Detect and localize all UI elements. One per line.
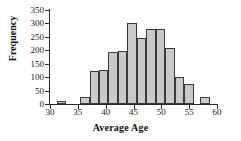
- y-tick-label: 50: [20, 87, 44, 96]
- x-tick-label: 60: [206, 108, 228, 117]
- x-tick-label: 45: [123, 108, 145, 117]
- y-tick: [45, 37, 49, 38]
- bars-layer: [50, 10, 217, 104]
- x-tick-label: 55: [178, 108, 200, 117]
- y-tick: [45, 77, 49, 78]
- y-tick-label: 100: [20, 73, 44, 82]
- y-tick-label: 300: [20, 19, 44, 28]
- x-tick-label: 50: [150, 108, 172, 117]
- histogram-bar: [146, 29, 155, 104]
- histogram-bar: [165, 48, 174, 104]
- histogram-bar: [156, 29, 165, 104]
- histogram-bar: [127, 23, 136, 104]
- histogram-bar: [80, 97, 89, 104]
- histogram-bar: [90, 71, 99, 104]
- histogram-bar: [200, 97, 209, 104]
- y-axis-title: Frequency: [7, 4, 18, 74]
- y-tick-label: 200: [20, 46, 44, 55]
- histogram-bar: [57, 101, 66, 104]
- histogram-bar: [175, 77, 184, 104]
- x-tick-label: 35: [67, 108, 89, 117]
- x-tick-label: 40: [95, 108, 117, 117]
- y-tick-label: 250: [20, 33, 44, 42]
- y-tick: [45, 23, 49, 24]
- histogram-bar: [99, 70, 108, 104]
- x-tick-label: 30: [39, 108, 61, 117]
- histogram-bar: [108, 52, 117, 104]
- histogram-bar: [137, 38, 146, 104]
- histogram-bar: [118, 51, 127, 104]
- y-tick: [45, 104, 49, 105]
- y-tick: [45, 50, 49, 51]
- x-axis-title: Average Age: [0, 122, 241, 133]
- histogram-bar: [184, 84, 193, 104]
- y-tick-label: 150: [20, 60, 44, 69]
- y-tick-label: 350: [20, 6, 44, 15]
- histogram-chart: 050100150200250300350 30354045505560 Fre…: [0, 0, 241, 141]
- y-tick: [45, 64, 49, 65]
- y-tick: [45, 91, 49, 92]
- y-tick: [45, 10, 49, 11]
